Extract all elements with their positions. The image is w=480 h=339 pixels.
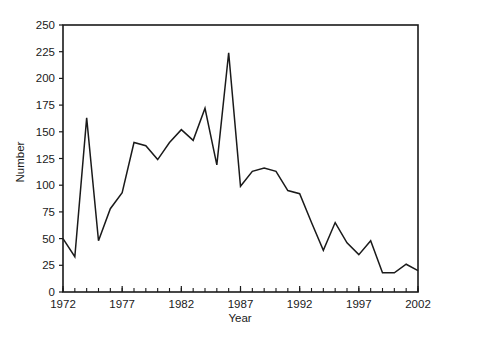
line-chart-svg: 0255075100125150175200225250 19721977198… (0, 0, 480, 339)
y-tick-label: 150 (36, 126, 55, 138)
y-tick-label: 0 (49, 286, 55, 298)
y-tick-label: 250 (36, 19, 55, 31)
y-tick-label: 25 (42, 259, 55, 271)
x-axis-ticks: 1972197719821987199219972002 (50, 286, 431, 310)
x-tick-label: 1977 (109, 298, 135, 310)
x-tick-label: 1987 (228, 298, 254, 310)
x-tick-label: 1997 (346, 298, 372, 310)
x-axis-title: Year (228, 312, 251, 324)
x-tick-label: 1972 (50, 298, 76, 310)
x-tick-label: 1992 (287, 298, 313, 310)
plot-frame (63, 25, 418, 292)
y-tick-label: 125 (36, 153, 55, 165)
x-tick-label: 1982 (169, 298, 195, 310)
y-tick-label: 200 (36, 72, 55, 84)
y-axis-title: Number (14, 141, 26, 182)
data-series-line (63, 53, 418, 273)
y-tick-label: 50 (42, 233, 55, 245)
y-tick-label: 225 (36, 46, 55, 58)
chart-figure: 0255075100125150175200225250 19721977198… (0, 0, 480, 339)
x-tick-label: 2002 (405, 298, 431, 310)
y-axis-ticks: 0255075100125150175200225250 (36, 19, 63, 298)
y-tick-label: 100 (36, 179, 55, 191)
y-tick-label: 175 (36, 99, 55, 111)
y-tick-label: 75 (42, 206, 55, 218)
